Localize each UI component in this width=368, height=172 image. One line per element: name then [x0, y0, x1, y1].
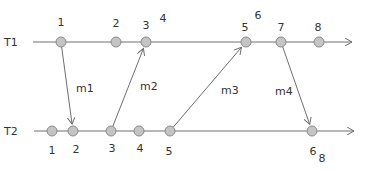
event-label-t1-2: 2	[113, 17, 120, 30]
event-label-t1-6: 6	[255, 9, 262, 22]
event-label-t1-1: 1	[58, 16, 65, 29]
message-label-m3: m3	[221, 84, 239, 97]
space-time-diagram: T112345678T21234568m1m2m3m4	[0, 0, 368, 172]
event-label-t2-8: 8	[319, 152, 326, 165]
event-label-t2-2: 2	[73, 143, 80, 156]
event-t1-3	[141, 37, 151, 47]
event-label-t1-8: 8	[315, 21, 322, 34]
event-t1-7	[276, 37, 286, 47]
message-label-m2: m2	[140, 80, 158, 93]
event-label-t2-5: 5	[166, 145, 173, 158]
event-label-t1-3: 3	[143, 19, 150, 32]
event-t2-4	[134, 126, 144, 136]
event-label-t2-1: 1	[49, 144, 56, 157]
event-t1-1	[56, 37, 66, 47]
message-arrow-m2	[113, 49, 144, 127]
labels-layer: T112345678T21234568m1m2m3m4	[3, 9, 326, 165]
event-t2-3	[106, 126, 116, 136]
event-t2-1	[47, 126, 57, 136]
messages-layer	[62, 47, 310, 127]
event-t1-5	[241, 37, 251, 47]
process-label-t1: T1	[3, 36, 18, 49]
event-t2-8	[307, 126, 317, 136]
event-label-t1-5: 5	[242, 21, 249, 34]
event-t2-2	[68, 126, 78, 136]
process-label-t2: T2	[3, 125, 18, 138]
event-label-t2-6: 6	[310, 145, 317, 158]
event-t2-5	[165, 126, 175, 136]
event-label-t1-4: 4	[160, 12, 167, 25]
event-label-t2-4: 4	[137, 142, 144, 155]
event-t1-8	[314, 37, 324, 47]
message-label-m1: m1	[76, 82, 94, 95]
event-label-t2-3: 3	[109, 142, 116, 155]
event-label-t1-7: 7	[278, 21, 285, 34]
event-t1-2	[111, 37, 121, 47]
message-label-m4: m4	[275, 85, 293, 98]
message-arrow-m1	[62, 47, 72, 124]
